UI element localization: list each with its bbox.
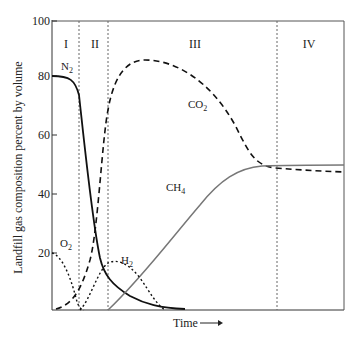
y-axis-label: Landfill gas composition percent by volu… <box>11 38 26 298</box>
arrow-right-icon <box>200 320 223 326</box>
phase-label-IV: IV <box>303 37 316 51</box>
label-ch4: CH4 <box>166 181 185 196</box>
label-h2: H2 <box>121 254 133 269</box>
x-axis-label: Time <box>173 316 198 330</box>
y-ticks <box>52 21 57 253</box>
series-ch4 <box>108 165 344 310</box>
phase-label-II: II <box>91 37 99 51</box>
series-h2 <box>80 261 165 310</box>
y-tick-80: 80 <box>38 69 50 83</box>
landfill-gas-chart: 100 80 60 40 20 I II III IV N2 CO2 CH4 O… <box>0 0 353 338</box>
y-tick-20: 20 <box>38 246 50 260</box>
label-n2: N2 <box>61 60 73 75</box>
y-tick-100: 100 <box>32 14 50 28</box>
y-tick-60: 60 <box>38 128 50 142</box>
phase-label-III: III <box>189 37 201 51</box>
phase-label-I: I <box>64 37 68 51</box>
label-co2: CO2 <box>188 98 207 113</box>
label-o2: O2 <box>60 237 72 252</box>
y-tick-40: 40 <box>38 187 50 201</box>
